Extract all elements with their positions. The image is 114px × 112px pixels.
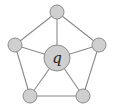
node-right <box>92 38 106 52</box>
node-left <box>8 38 22 52</box>
edge-bottom-left-left <box>15 45 30 96</box>
node-bottom-right <box>76 89 90 103</box>
center-node-label: q <box>52 49 62 67</box>
graph-diagram: q <box>0 0 114 112</box>
edge-left-top <box>15 12 57 45</box>
edge-right-bottom-right <box>83 45 99 96</box>
edge-top-right <box>57 12 99 45</box>
node-bottom-left <box>23 89 37 103</box>
node-top <box>50 5 64 19</box>
